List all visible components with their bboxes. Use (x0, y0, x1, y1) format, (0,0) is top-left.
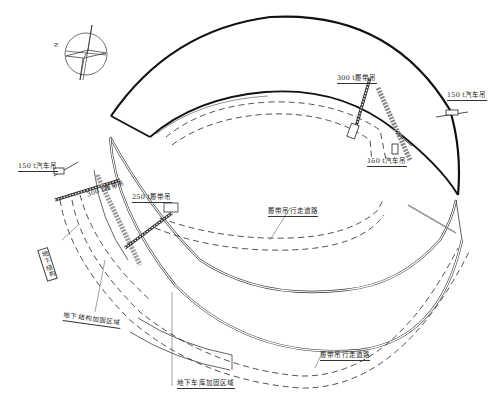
label-truck-150t-left: 150 t汽车吊 (18, 163, 58, 172)
lower-roof-structure (110, 137, 462, 351)
label-truck-150t-upper-mid: 150 t汽车吊 (367, 158, 407, 167)
mid-crawler-path (155, 198, 384, 250)
label-crawler-300t-upper: 300 t履带吊 (337, 75, 377, 84)
label-crawler-path-bottom: 履带吊行走道路 (320, 352, 370, 361)
leader-lines (62, 208, 320, 386)
upper-roof-structure (111, 17, 459, 195)
compass-north-label: N (53, 43, 59, 47)
label-truck-150t-upper-right: 150 t汽车吊 (447, 92, 487, 101)
label-underground-garage-reinforce: 地下车库加固区域 (177, 380, 235, 389)
compass-icon (65, 25, 107, 80)
site-plan-drawing (0, 0, 492, 413)
label-crawler-path-mid: 履带吊行走道路 (268, 208, 318, 217)
label-crawler-250t: 250 t履带吊 (132, 194, 172, 203)
